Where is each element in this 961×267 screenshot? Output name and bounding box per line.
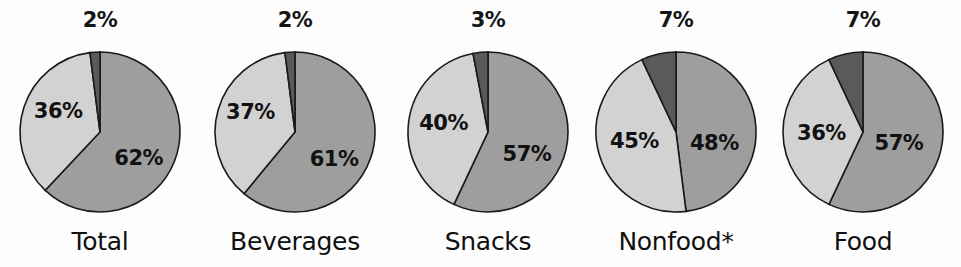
pie-slice-value-label: 36% [34,99,83,123]
pie-slice-value-label: 45% [610,129,659,153]
pie-slice-value-label: 61% [310,147,359,171]
pie-panel-beverages: 2%61%37%Beverages [195,0,395,267]
pie-chart-figure: 2%62%36%Total2%61%37%Beverages3%57%40%Sn… [0,0,961,267]
pie-slice-value-label: 40% [419,111,468,135]
pie-category-label: Snacks [388,227,588,256]
pie-slice-value-label: 37% [226,100,275,124]
pie-category-label: Beverages [195,227,395,256]
pie-panel-total: 2%62%36%Total [0,0,200,267]
pie-slice-value-label: 48% [690,131,739,155]
pie-panel-food: 7%57%36%Food [763,0,961,267]
pie-panel-snacks: 3%57%40%Snacks [388,0,588,267]
pie-slice-value-label: 62% [114,146,163,170]
pie-slice-value-label: 57% [875,131,924,155]
pie-category-label: Total [0,227,200,256]
pie-category-label: Nonfood* [576,227,776,256]
pie-panel-nonfood: 7%48%45%Nonfood* [576,0,776,267]
pie-slice-value-label: 57% [503,142,552,166]
pie-category-label: Food [763,227,961,256]
pie-slice-value-label: 36% [797,121,846,145]
